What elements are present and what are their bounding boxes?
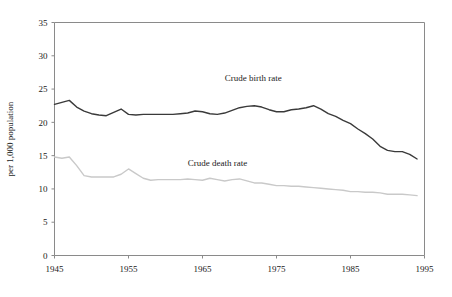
y-tick-label: 0	[43, 251, 48, 261]
x-tick-label: 1955	[120, 264, 139, 274]
y-tick-label: 25	[39, 84, 49, 94]
chart-container: 05101520253035 194519551965197519851995 …	[0, 0, 452, 297]
x-tick-label: 1995	[416, 264, 435, 274]
y-tick-label: 20	[39, 118, 49, 128]
y-tick-label: 10	[39, 184, 49, 194]
crude-birth-rate-label: Crude birth rate	[225, 73, 282, 83]
y-axis-title: per 1,000 population	[5, 101, 15, 176]
y-tick-label: 5	[43, 217, 48, 227]
x-tick-label: 1975	[268, 264, 287, 274]
x-tick-label: 1965	[194, 264, 213, 274]
crude-death-rate-label: Crude death rate	[188, 158, 247, 168]
x-tick-label: 1945	[46, 264, 65, 274]
y-tick-label: 15	[39, 151, 49, 161]
line-chart: 05101520253035 194519551965197519851995 …	[0, 0, 452, 297]
y-tick-label: 30	[39, 51, 49, 61]
y-tick-label: 35	[39, 18, 49, 28]
x-tick-label: 1985	[342, 264, 361, 274]
